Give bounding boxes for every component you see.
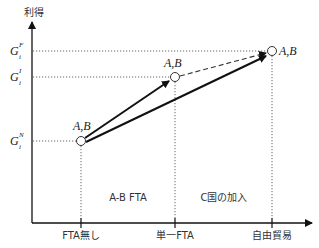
svg-text:G: G	[10, 70, 19, 84]
svg-text:N: N	[18, 131, 24, 139]
x-tick-label-free-trade: 自由貿易	[252, 229, 292, 241]
region-label-ab-fta: A-B FTA	[109, 192, 147, 203]
point-no-fta	[77, 137, 86, 146]
y-axis-label: 利得	[24, 7, 44, 18]
svg-text:i: i	[19, 143, 21, 151]
region-label-c-join: C国の加入	[201, 192, 248, 203]
y-level-gf: G F i	[10, 41, 24, 61]
svg-text:i: i	[19, 53, 21, 61]
x-tick-label-single-fta: 単一FTA	[156, 229, 194, 241]
point-label-free-trade: A,B	[278, 44, 297, 58]
svg-text:F: F	[18, 41, 24, 49]
y-level-gi: G I i	[10, 67, 22, 87]
point-single-fta	[171, 73, 180, 82]
svg-text:G: G	[10, 44, 19, 58]
welfare-diagram: A,B A,B A,B 利得 G F i G I i G N i A-B FTA…	[0, 0, 319, 248]
arrow-no-fta-to-single-fta	[85, 81, 169, 138]
point-label-no-fta: A,B	[72, 119, 91, 133]
x-tick-label-no-fta: FTA無し	[62, 229, 100, 241]
arrow-single-fta-to-free-trade	[180, 53, 266, 76]
svg-text:G: G	[10, 134, 19, 148]
svg-text:i: i	[19, 79, 21, 87]
point-free-trade	[268, 47, 277, 56]
point-label-single-fta: A,B	[163, 56, 182, 70]
svg-text:I: I	[18, 67, 22, 75]
y-level-gn: G N i	[10, 131, 24, 151]
